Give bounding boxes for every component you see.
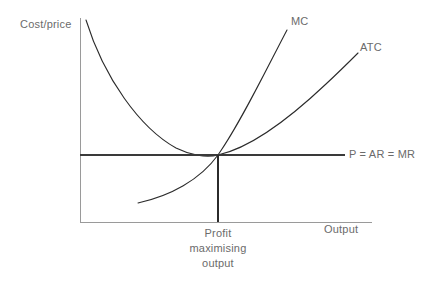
profit-max-line-1: Profit — [168, 226, 268, 241]
profit-max-line-2: maximising — [168, 241, 268, 256]
price-line-label: P = AR = MR — [349, 148, 415, 160]
atc-curve-label: ATC — [360, 41, 382, 53]
economics-diagram: Cost/price MC ATC P = AR = MR Output Pro… — [0, 0, 440, 285]
mc-curve — [138, 30, 287, 203]
mc-curve-label: MC — [291, 15, 309, 27]
x-axis-label: Output — [324, 223, 358, 235]
profit-maximising-output-label: Profit maximising output — [168, 226, 268, 271]
y-axis-label: Cost/price — [20, 18, 72, 30]
profit-max-line-3: output — [168, 256, 268, 271]
atc-curve — [86, 20, 358, 156]
